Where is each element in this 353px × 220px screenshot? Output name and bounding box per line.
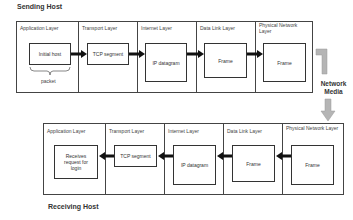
network-media-down-arrow-icon: [321, 99, 335, 121]
arrow-left-icon: [158, 152, 164, 160]
sending-arrows: [71, 50, 263, 58]
arrows-layer: [0, 0, 353, 220]
arrow-right-icon: [81, 50, 87, 58]
network-media-bent-arrow-icon: [316, 49, 327, 74]
arrow-right-icon: [139, 50, 145, 58]
packet-brace-icon: [30, 67, 70, 75]
arrow-left-icon: [99, 152, 105, 160]
arrow-right-icon: [257, 50, 263, 58]
arrow-left-icon: [217, 152, 223, 160]
receiving-arrows: [99, 152, 291, 160]
arrow-left-icon: [276, 152, 282, 160]
arrow-right-icon: [198, 50, 204, 58]
